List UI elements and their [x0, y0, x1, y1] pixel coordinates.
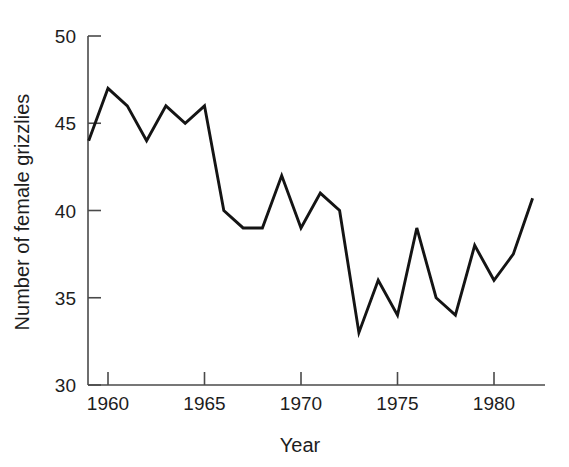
axes-group	[88, 36, 545, 385]
y-tick-label-50: 50	[55, 26, 76, 47]
x-tick-label-1965: 1965	[183, 393, 225, 414]
x-tick-label-1960: 1960	[87, 393, 129, 414]
y-axis-title: Number of female grizzlies	[11, 94, 33, 331]
y-tick-label-40: 40	[55, 201, 76, 222]
grizzly-population-chart: 3035404550 19601965197019751980 Year Num…	[0, 0, 569, 467]
y-axis-ticks	[88, 36, 101, 385]
data-series-group	[89, 88, 533, 332]
y-tick-label-35: 35	[55, 288, 76, 309]
x-tick-label-1980: 1980	[473, 393, 515, 414]
y-axis-tick-labels: 3035404550	[55, 26, 76, 396]
y-tick-label-45: 45	[55, 113, 76, 134]
x-tick-label-1975: 1975	[376, 393, 418, 414]
x-axis-ticks	[108, 372, 494, 385]
x-axis-tick-labels: 19601965197019751980	[87, 393, 515, 414]
chart-svg: 3035404550 19601965197019751980 Year Num…	[0, 0, 569, 467]
x-tick-label-1970: 1970	[280, 393, 322, 414]
data-series-line	[89, 88, 533, 332]
x-axis-title: Year	[280, 434, 321, 456]
y-tick-label-30: 30	[55, 375, 76, 396]
